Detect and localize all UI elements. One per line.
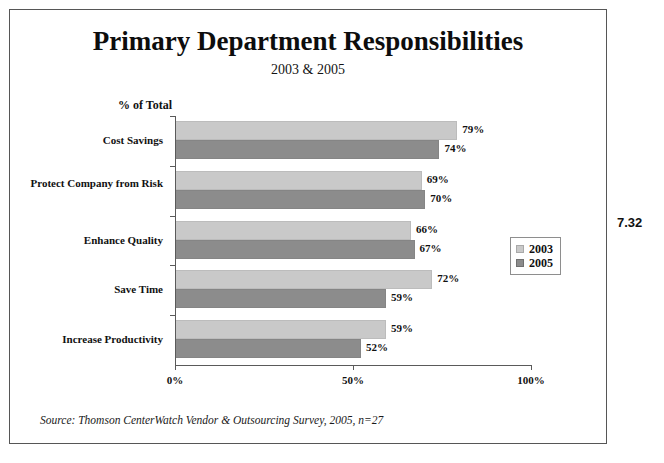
legend-item: 2003 [516, 242, 553, 256]
bar-value-label: 69% [422, 173, 449, 185]
chart-legend: 2003 2005 [510, 237, 561, 275]
x-axis-tick [175, 365, 176, 370]
bar-value-label: 67% [415, 242, 442, 254]
chart-subtitle: 2003 & 2005 [10, 62, 606, 78]
chart-title: Primary Department Responsibilities [10, 26, 606, 57]
bar-row: 67% [176, 240, 532, 259]
bar-row: 72% [176, 270, 532, 289]
category-label: Enhance Quality [3, 234, 163, 247]
category-label: Save Time [3, 283, 163, 296]
bar-value-label: 79% [457, 123, 484, 135]
chart-frame: Primary Department Responsibilities 2003… [9, 9, 607, 444]
legend-item: 2005 [516, 256, 553, 270]
bar-2003 [176, 121, 457, 140]
legend-swatch-2003 [516, 245, 524, 253]
legend-label-2003: 2003 [529, 242, 553, 257]
bar-group: Cost Savings79%74% [175, 116, 531, 166]
bar-2003 [176, 171, 422, 190]
bar-2003 [176, 221, 411, 240]
bar-row: 66% [176, 221, 532, 240]
bar-row: 59% [176, 289, 532, 308]
bar-2003 [176, 270, 432, 289]
bar-group: Protect Company from Risk69%70% [175, 166, 531, 216]
plot-area: 0%50%100% Cost Savings79%74%Protect Comp… [175, 116, 531, 364]
category-label: Increase Productivity [3, 333, 163, 346]
bar-row: 59% [176, 320, 532, 339]
x-axis-tick-label: 50% [342, 374, 364, 386]
bar-value-label: 59% [386, 322, 413, 334]
x-axis-tick-label: 100% [517, 374, 545, 386]
bar-row: 52% [176, 339, 532, 358]
legend-label-2005: 2005 [529, 256, 553, 271]
bar-value-label: 70% [425, 192, 452, 204]
bar-2005 [176, 240, 415, 259]
x-axis-tick-label: 0% [167, 374, 184, 386]
bar-2005 [176, 140, 439, 159]
bar-group: Enhance Quality66%67% [175, 216, 531, 266]
bar-2005 [176, 339, 361, 358]
bar-value-label: 74% [439, 142, 466, 154]
bar-value-label: 59% [386, 291, 413, 303]
bar-row: 70% [176, 190, 532, 209]
category-label: Cost Savings [3, 134, 163, 147]
bar-value-label: 72% [432, 272, 459, 284]
bar-2005 [176, 289, 386, 308]
bar-row: 74% [176, 140, 532, 159]
bar-2005 [176, 190, 425, 209]
x-axis-tick [353, 365, 354, 370]
category-label: Protect Company from Risk [3, 177, 163, 190]
figure-number: 7.32 [617, 215, 642, 230]
bar-value-label: 66% [411, 223, 438, 235]
bar-group: Save Time72%59% [175, 265, 531, 315]
legend-swatch-2005 [516, 259, 524, 267]
bar-group: Increase Productivity59%52% [175, 315, 531, 365]
x-axis-tick [531, 365, 532, 370]
bar-value-label: 52% [361, 341, 388, 353]
source-note: Source: Thomson CenterWatch Vendor & Out… [40, 414, 383, 426]
axis-title: % of Total [76, 98, 172, 113]
bar-2003 [176, 320, 386, 339]
bar-row: 79% [176, 121, 532, 140]
bar-row: 69% [176, 171, 532, 190]
